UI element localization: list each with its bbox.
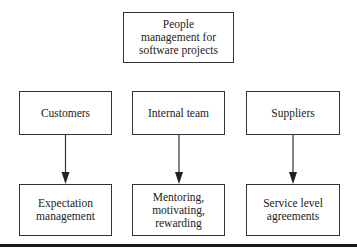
outcome-line-2: management [36,210,95,223]
outcome-line-2: agreements [263,210,323,223]
arrowhead-icon [175,172,183,184]
outcome-line-1: Expectation [36,197,95,210]
outcome-node-mentoring: Mentoring, motivating, rewarding [132,184,225,236]
arrowhead-icon [62,172,70,184]
outcome-line-1: Mentoring, [152,191,205,204]
bottom-rule-divider [0,244,357,247]
outcome-node-service-level-agreements: Service level agreements [246,184,340,236]
arrowhead-icon [289,172,297,184]
outcome-line-2: motivating, [152,204,205,217]
outcome-line-3: rewarding [152,217,205,230]
outcome-node-expectation-management: Expectation management [19,184,112,236]
outcome-line-1: Service level [263,197,323,210]
